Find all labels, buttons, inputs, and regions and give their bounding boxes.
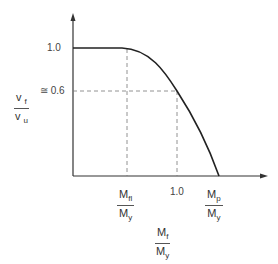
x-tick-mfl: Mfl My <box>117 188 134 225</box>
x-axis-label: Mf My <box>155 226 170 263</box>
y-axis-label: v f v u <box>14 91 29 128</box>
y-tick-1: 1.0 <box>47 42 61 53</box>
y-axis-arrow-icon <box>71 13 76 21</box>
interaction-curve <box>73 48 219 176</box>
y-tick-06: ≅ 0.6 <box>40 85 65 96</box>
x-tick-1: 1.0 <box>170 186 184 197</box>
x-axis-arrow-icon <box>260 174 268 179</box>
interaction-diagram <box>0 0 278 264</box>
x-tick-mp: Mp My <box>205 188 223 225</box>
